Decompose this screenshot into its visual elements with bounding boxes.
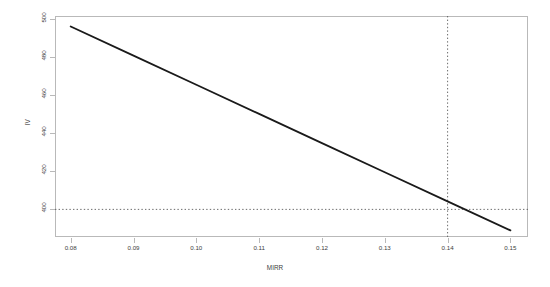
y-tick-label: 480 [41,52,47,61]
x-tick-mark [322,238,323,243]
y-tick-label: 500 [41,13,47,22]
x-tick-mark [385,238,386,243]
x-tick-label: 0.08 [56,245,86,251]
x-tick-mark [259,238,260,243]
x-tick-label: 0.11 [244,245,274,251]
x-axis-title: MIRR [0,265,550,271]
x-tick-label: 0.14 [433,245,463,251]
y-tick-label: 420 [41,166,47,175]
y-tick-mark [50,171,55,172]
y-tick-label: 440 [41,128,47,137]
y-tick-mark [50,209,55,210]
x-tick-mark [448,238,449,243]
y-tick-label: 460 [41,90,47,99]
y-tick-mark [50,133,55,134]
x-tick-label: 0.15 [495,245,525,251]
x-tick-label: 0.13 [370,245,400,251]
chart-canvas: 500 480 460 440 420 400 0.08 0.09 0.10 0… [0,0,550,287]
y-tick-mark [50,57,55,58]
data-series-line [71,26,511,230]
y-axis-title: IV [25,113,31,131]
plot-svg [55,16,528,237]
x-tick-label: 0.09 [119,245,149,251]
x-tick-label: 0.10 [181,245,211,251]
y-tick-mark [50,95,55,96]
x-tick-mark [71,238,72,243]
x-tick-mark [134,238,135,243]
x-tick-mark [510,238,511,243]
y-tick-mark [50,19,55,20]
x-tick-label: 0.12 [307,245,337,251]
plot-area [55,16,528,237]
x-tick-mark [196,238,197,243]
y-tick-label: 400 [41,204,47,213]
